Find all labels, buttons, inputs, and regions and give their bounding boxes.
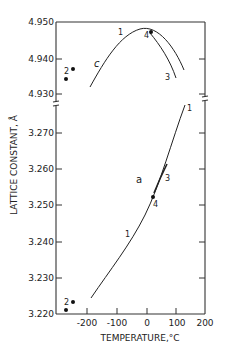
svg-text:3.270: 3.270 — [28, 128, 54, 138]
svg-text:a: a — [136, 174, 142, 185]
svg-text:2: 2 — [64, 67, 69, 76]
svg-text:200: 200 — [196, 318, 213, 328]
svg-text:4: 4 — [144, 31, 149, 40]
a-point-2b — [71, 300, 75, 304]
svg-text:-100: -100 — [107, 318, 128, 328]
svg-text:1: 1 — [187, 104, 192, 113]
svg-text:3.240: 3.240 — [28, 237, 54, 247]
svg-text:3.250: 3.250 — [28, 200, 54, 210]
svg-text:3.230: 3.230 — [28, 273, 54, 283]
svg-text:4.930: 4.930 — [28, 89, 54, 99]
svg-text:4: 4 — [153, 200, 158, 209]
c-point-2b — [71, 67, 75, 71]
lattice-constant-chart: 4.950 4.940 4.930 3.270 3.260 3.250 3.24… — [0, 0, 225, 355]
svg-text:0: 0 — [144, 318, 150, 328]
a-point-2a — [64, 308, 68, 312]
a-point-4 — [151, 195, 155, 199]
x-axis-title: TEMPERATURE,°C — [99, 333, 179, 343]
svg-text:3: 3 — [165, 174, 170, 183]
y-tick-labels-lower: 3.270 3.260 3.250 3.240 3.230 3.220 — [28, 128, 54, 319]
c-point-4 — [149, 30, 153, 34]
axis-break-marks — [53, 96, 208, 106]
svg-text:3.260: 3.260 — [28, 164, 54, 174]
svg-text:4.950: 4.950 — [28, 17, 54, 27]
svg-text:1: 1 — [125, 230, 130, 239]
a-panel-series — [91, 105, 185, 298]
svg-text:100: 100 — [168, 318, 185, 328]
svg-text:3.220: 3.220 — [28, 309, 54, 319]
svg-text:2: 2 — [64, 298, 69, 307]
svg-text:-200: -200 — [77, 318, 98, 328]
svg-text:3: 3 — [165, 73, 170, 82]
x-ticks — [87, 308, 176, 314]
c-panel-labels: 1 4 3 2 c — [64, 28, 170, 82]
y-ticks-lower — [56, 133, 205, 278]
c-curve-3 — [150, 33, 176, 78]
x-tick-labels: -200 -100 0 100 200 — [77, 318, 214, 328]
a-panel-labels: 1 1 3 4 2 a — [64, 104, 192, 307]
svg-text:1: 1 — [118, 28, 123, 37]
svg-text:c: c — [94, 58, 100, 69]
y-tick-labels-upper: 4.950 4.940 4.930 — [28, 17, 54, 99]
y-ticks-upper — [56, 59, 205, 94]
c-point-2a — [64, 77, 68, 81]
y-axis-title: LATTICE CONSTANT, Å — [8, 114, 19, 215]
a-curve-1 — [91, 105, 185, 298]
svg-text:4.940: 4.940 — [28, 54, 54, 64]
